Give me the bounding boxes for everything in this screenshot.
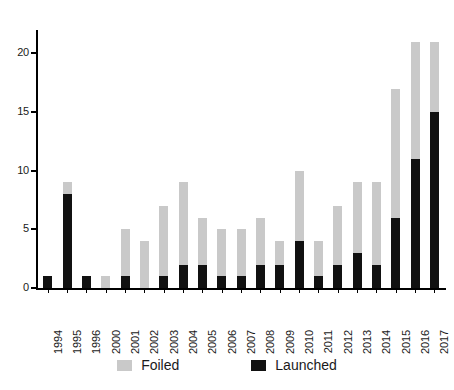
bar-segment-launched[interactable] (353, 253, 362, 288)
bar-segment-launched[interactable] (237, 276, 246, 288)
bar-group[interactable] (217, 30, 226, 288)
bar-segment-launched[interactable] (159, 276, 168, 288)
bar-segment-launched[interactable] (63, 194, 72, 288)
bar-group[interactable] (256, 30, 265, 288)
bar-group[interactable] (43, 30, 52, 288)
bar-series-container (38, 30, 444, 288)
bar-group[interactable] (237, 30, 246, 288)
bar-segment-foiled[interactable] (63, 182, 72, 194)
x-axis-tick (144, 290, 145, 293)
x-axis-tick (125, 290, 126, 293)
bar-group[interactable] (411, 30, 420, 288)
legend-item[interactable]: Foiled (117, 358, 179, 372)
bar-segment-launched[interactable] (82, 276, 91, 288)
bar-group[interactable] (140, 30, 149, 288)
bar-segment-foiled[interactable] (275, 241, 284, 264)
bar-group[interactable] (179, 30, 188, 288)
y-axis-tick (31, 111, 37, 113)
bar-group[interactable] (295, 30, 304, 288)
x-axis-tick (357, 290, 358, 293)
x-axis-tick (222, 290, 223, 293)
bar-segment-foiled[interactable] (256, 218, 265, 265)
bar-group[interactable] (82, 30, 91, 288)
bar-segment-foiled[interactable] (372, 182, 381, 264)
x-axis-tick-label: 2006 (227, 330, 238, 354)
bar-segment-foiled[interactable] (198, 218, 207, 265)
x-axis-tick (318, 290, 319, 293)
bar-group[interactable] (275, 30, 284, 288)
legend-label: Launched (275, 358, 337, 372)
bar-segment-launched[interactable] (217, 276, 226, 288)
bar-group[interactable] (159, 30, 168, 288)
bar-segment-foiled[interactable] (391, 89, 400, 218)
x-axis-tick-label: 2010 (304, 330, 315, 354)
bar-segment-foiled[interactable] (295, 171, 304, 241)
x-axis-tick (415, 290, 416, 293)
bar-group[interactable] (198, 30, 207, 288)
bar-group[interactable] (353, 30, 362, 288)
bar-segment-launched[interactable] (333, 265, 342, 288)
bar-group[interactable] (430, 30, 439, 288)
legend-label: Foiled (141, 358, 179, 372)
y-axis-tick-label-wrap: 5 (0, 223, 29, 234)
bar-segment-launched[interactable] (295, 241, 304, 288)
bar-segment-launched[interactable] (121, 276, 130, 288)
bar-segment-launched[interactable] (179, 265, 188, 288)
bar-segment-launched[interactable] (391, 218, 400, 288)
bar-segment-foiled[interactable] (333, 206, 342, 265)
bar-segment-foiled[interactable] (237, 229, 246, 276)
bar-group[interactable] (333, 30, 342, 288)
bar-segment-launched[interactable] (372, 265, 381, 288)
bar-segment-foiled[interactable] (159, 206, 168, 276)
x-axis-tick (106, 290, 107, 293)
legend-item[interactable]: Launched (251, 358, 337, 372)
y-axis-tick-label-wrap: 10 (0, 165, 29, 176)
bar-segment-launched[interactable] (43, 276, 52, 288)
x-axis-tick (396, 290, 397, 293)
y-axis-tick-label-wrap: 15 (0, 106, 29, 117)
bar-group[interactable] (63, 30, 72, 288)
y-axis-tick-label-wrap: 20 (0, 47, 29, 58)
bar-segment-foiled[interactable] (217, 229, 226, 276)
x-axis-tick (67, 290, 68, 293)
x-axis-tick-label: 1994 (53, 330, 64, 354)
bar-group[interactable] (121, 30, 130, 288)
bar-group[interactable] (314, 30, 323, 288)
x-axis-tick (376, 290, 377, 293)
x-axis-tick-label: 2001 (130, 330, 141, 354)
bar-segment-foiled[interactable] (121, 229, 130, 276)
legend-swatch-launched (251, 360, 266, 371)
y-axis-tick (31, 170, 37, 172)
x-axis-tick (434, 290, 435, 293)
bar-segment-foiled[interactable] (140, 241, 149, 288)
y-axis-tick-label: 5 (3, 223, 29, 234)
bar-group[interactable] (372, 30, 381, 288)
x-axis-tick (241, 290, 242, 293)
y-axis-tick-label: 20 (3, 47, 29, 58)
bar-group[interactable] (101, 30, 110, 288)
chart-legend: FoiledLaunched (0, 352, 454, 378)
bar-group[interactable] (391, 30, 400, 288)
bar-segment-launched[interactable] (198, 265, 207, 288)
bar-segment-launched[interactable] (256, 265, 265, 288)
x-axis-tick-label: 1996 (91, 330, 102, 354)
x-axis-tick-label: 2015 (401, 330, 412, 354)
bar-segment-launched[interactable] (314, 276, 323, 288)
x-axis-tick (86, 290, 87, 293)
stacked-bar-chart: 05101520 1994199519962000200120022003200… (0, 0, 454, 390)
bar-segment-foiled[interactable] (101, 276, 110, 288)
bar-segment-launched[interactable] (411, 159, 420, 288)
bar-segment-foiled[interactable] (179, 182, 188, 264)
y-axis-tick-label: 15 (3, 106, 29, 117)
bar-segment-launched[interactable] (275, 265, 284, 288)
bar-segment-foiled[interactable] (353, 182, 362, 252)
bar-segment-foiled[interactable] (430, 42, 439, 112)
x-axis-tick-label: 2004 (188, 330, 199, 354)
bar-segment-foiled[interactable] (314, 241, 323, 276)
x-axis-tick-label: 2007 (246, 330, 257, 354)
bar-segment-foiled[interactable] (411, 42, 420, 159)
x-axis-tick-label: 2002 (149, 330, 160, 354)
x-axis-tick-label: 2003 (169, 330, 180, 354)
y-axis-tick-label: 0 (3, 282, 29, 293)
bar-segment-launched[interactable] (430, 112, 439, 288)
